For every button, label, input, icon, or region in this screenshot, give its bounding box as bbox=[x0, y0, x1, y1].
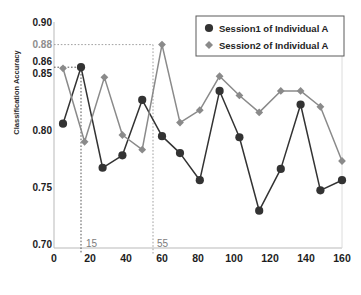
data-point bbox=[101, 73, 109, 81]
x-tick-140: 140 bbox=[286, 252, 326, 264]
x-tick-160: 160 bbox=[322, 252, 361, 264]
data-point bbox=[59, 120, 67, 128]
x-tick-60: 60 bbox=[142, 252, 182, 264]
y-tick-0.75: 0.75 bbox=[8, 183, 52, 193]
data-point bbox=[176, 149, 184, 157]
y-tick-0.70: 0.70 bbox=[8, 240, 52, 250]
x-tick-0: 0 bbox=[34, 252, 74, 264]
data-point bbox=[99, 164, 107, 172]
data-point bbox=[297, 100, 305, 108]
y-tick-0.85: 0.85 bbox=[8, 69, 52, 79]
data-point bbox=[59, 64, 67, 72]
y-tick-0.90: 0.90 bbox=[8, 18, 52, 28]
data-point bbox=[138, 96, 146, 104]
data-point bbox=[216, 87, 224, 95]
x-tick-120: 120 bbox=[250, 252, 290, 264]
data-point bbox=[118, 151, 126, 159]
x-tick-100: 100 bbox=[214, 252, 254, 264]
annotation-label-55: 55 bbox=[157, 238, 168, 249]
data-point bbox=[158, 41, 166, 49]
data-point bbox=[338, 157, 346, 165]
chart-container: Classification Accuracy 0.90 0.88 0.86 0… bbox=[0, 0, 361, 295]
data-point bbox=[196, 106, 204, 114]
y-tick-annot-0.88: 0.88 bbox=[8, 40, 52, 50]
plot-area: Session1 of Individual ASession2 of Indi… bbox=[0, 0, 361, 295]
data-point bbox=[277, 165, 285, 173]
y-tick-0.80: 0.80 bbox=[8, 126, 52, 136]
legend-label-1: Session1 of Individual A bbox=[219, 23, 329, 34]
annotation-label-15: 15 bbox=[86, 238, 97, 249]
data-point bbox=[158, 132, 166, 140]
y-axis-tick-group: 0.90 0.88 0.86 0.85 0.80 0.75 0.70 bbox=[0, 0, 52, 295]
data-point bbox=[77, 63, 85, 71]
data-point bbox=[316, 186, 324, 194]
legend-label-2: Session2 of Individual A bbox=[219, 40, 329, 51]
x-tick-40: 40 bbox=[106, 252, 146, 264]
data-point bbox=[81, 138, 89, 146]
data-point bbox=[338, 176, 346, 184]
data-point bbox=[255, 207, 263, 215]
legend: Session1 of Individual ASession2 of Indi… bbox=[196, 16, 344, 56]
y-tick-annot-0.86: 0.86 bbox=[8, 57, 52, 67]
x-tick-20: 20 bbox=[70, 252, 110, 264]
data-point bbox=[196, 176, 204, 184]
legend-marker-1 bbox=[205, 24, 213, 32]
data-point bbox=[235, 133, 243, 141]
x-tick-80: 80 bbox=[178, 252, 218, 264]
data-point bbox=[176, 119, 184, 127]
